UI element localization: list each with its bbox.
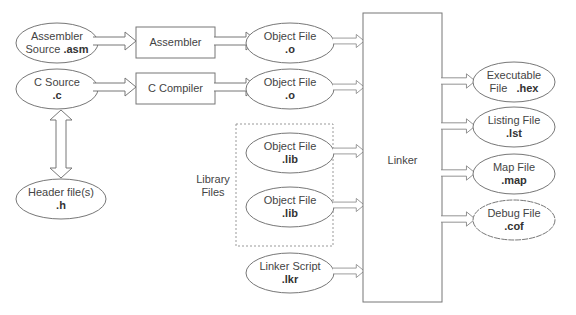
listing-file-ext: .lst [506,127,522,140]
assembler-source-text: Assembler Source .asm [16,23,98,63]
library-object-1-text: Object File .lib [246,133,334,173]
library-files-label-line1: Library [190,173,236,186]
listing-file-label: Listing File [488,114,541,127]
linker-script-ext: .lkr [282,273,299,286]
executable-file-label: Executable [487,69,541,82]
assembler-source-line2: Source .asm [26,43,89,56]
arrow-obj2-to-linker [333,80,364,93]
library-files-label: Library Files [190,173,236,199]
arrow-lib1-to-linker [333,144,364,157]
executable-file-label2: File [490,82,508,94]
map-file-ext: .map [501,174,527,187]
c-header-double-arrow [50,110,72,178]
c-source-text: C Source .c [16,69,98,109]
assembler-source-ext: .asm [63,43,88,55]
executable-file-line2: File .hex [490,82,539,95]
library-object-2-label: Object File [264,194,317,207]
executable-file-ext: .hex [516,82,538,94]
header-file-label: Header file(s) [28,186,94,199]
library-object-2-text: Object File .lib [246,187,334,227]
map-file-label: Map File [493,161,535,174]
library-object-2-ext: .lib [282,207,298,220]
arrow-obj1-to-linker [333,34,364,47]
c-source-ext: .c [52,89,61,102]
linker-label: Linker [388,154,418,167]
arrow-linker-to-hex [441,74,475,88]
linker-script-text: Linker Script .lkr [246,253,334,293]
object-file-1-ext: .o [285,43,295,56]
assembler-label: Assembler [150,36,202,49]
object-file-2-ext: .o [285,89,295,102]
assembler-source-label2: Source [26,43,61,55]
arrow-asm-to-assembler [93,32,136,50]
map-file-text: Map File .map [473,154,555,194]
c-source-label: C Source [34,76,80,89]
debug-file-ext: .cof [504,220,524,233]
arrow-linker-to-map [441,166,475,180]
library-object-1-label: Object File [264,140,317,153]
executable-file-text: Executable File .hex [473,62,555,102]
linker-script-label: Linker Script [259,260,320,273]
arrow-linker-to-lst [441,119,475,133]
debug-file-text: Debug File .cof [473,200,555,240]
object-file-1-label: Object File [264,30,317,43]
c-compiler-label: C Compiler [148,82,203,95]
object-file-2-label: Object File [264,76,317,89]
library-object-1-ext: .lib [282,153,298,166]
assembler-source-label: Assembler [31,30,83,43]
object-file-2-text: Object File .o [246,69,334,109]
library-files-label-line2: Files [190,186,236,199]
arrow-lib2-to-linker [333,198,364,211]
linker-text: Linker [363,150,442,170]
c-compiler-text: C Compiler [136,73,215,104]
arrow-c-to-compiler [93,78,136,96]
object-file-1-text: Object File .o [246,23,334,63]
listing-file-text: Listing File .lst [473,107,555,147]
header-file-ext: .h [56,199,66,212]
assembler-text: Assembler [136,27,215,58]
arrow-linker-to-cof [441,212,475,226]
header-file-text: Header file(s) .h [16,179,106,219]
arrow-script-to-linker [333,264,364,277]
debug-file-label: Debug File [487,207,540,220]
